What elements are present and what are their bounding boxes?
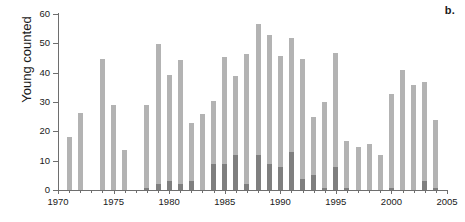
- bar-light: [322, 102, 327, 190]
- bar-dark: [189, 181, 194, 190]
- x-tick: [414, 190, 415, 193]
- bar-dark: [233, 155, 238, 190]
- x-tick-label: 2005: [427, 197, 465, 207]
- bar-light: [356, 147, 361, 190]
- bar-dark: [433, 188, 438, 190]
- x-tick: [269, 190, 270, 193]
- x-tick: [403, 190, 404, 193]
- x-tick: [125, 190, 126, 193]
- x-tick: [280, 190, 281, 194]
- bar-dark: [422, 181, 427, 190]
- bar-dark: [344, 188, 349, 190]
- bar-light: [111, 105, 116, 190]
- x-tick: [391, 190, 392, 194]
- y-tick-label: 60: [20, 9, 50, 19]
- bar-light: [300, 59, 305, 190]
- bar-dark: [300, 179, 305, 190]
- bar-light: [344, 141, 349, 190]
- x-axis-line: [58, 190, 447, 191]
- x-tick: [347, 190, 348, 193]
- x-tick: [136, 190, 137, 193]
- bar-light: [122, 150, 127, 190]
- x-tick: [291, 190, 292, 193]
- bar-dark: [311, 175, 316, 190]
- x-tick: [180, 190, 181, 193]
- bar-light: [178, 60, 183, 190]
- x-tick-label: 1980: [149, 197, 189, 207]
- x-tick: [69, 190, 70, 193]
- bar-light: [200, 114, 205, 190]
- y-tick-label: 0: [20, 185, 50, 195]
- y-tick-label: 10: [20, 156, 50, 166]
- bar-light: [411, 85, 416, 190]
- bar-light: [389, 94, 394, 191]
- x-tick: [369, 190, 370, 193]
- bar-dark: [167, 181, 172, 190]
- x-tick: [214, 190, 215, 193]
- x-tick: [80, 190, 81, 193]
- chart-figure: b. Young counted 0102030405060 197019751…: [0, 0, 465, 222]
- x-tick: [169, 190, 170, 194]
- y-tick-label: 50: [20, 38, 50, 48]
- x-tick: [191, 190, 192, 193]
- bar-light: [144, 105, 149, 190]
- x-tick: [358, 190, 359, 193]
- x-tick-label: 2000: [371, 197, 411, 207]
- bar-dark: [289, 152, 294, 190]
- bar-light: [189, 123, 194, 190]
- bar-dark: [322, 188, 327, 190]
- x-tick: [225, 190, 226, 194]
- bar-dark: [178, 184, 183, 190]
- x-tick: [436, 190, 437, 193]
- x-tick: [114, 190, 115, 194]
- bar-light: [422, 82, 427, 190]
- bar-light: [433, 120, 438, 190]
- x-tick: [102, 190, 103, 193]
- bar-light: [244, 54, 249, 190]
- bar-dark: [244, 184, 249, 190]
- x-tick: [447, 190, 448, 194]
- x-tick: [202, 190, 203, 193]
- y-tick-label: 40: [20, 68, 50, 78]
- x-tick: [303, 190, 304, 193]
- x-tick: [425, 190, 426, 193]
- bar-light: [378, 155, 383, 190]
- bar-light: [156, 44, 161, 190]
- bar-light: [400, 70, 405, 190]
- x-tick: [247, 190, 248, 193]
- x-tick: [91, 190, 92, 193]
- bar-dark: [222, 164, 227, 190]
- y-tick-label: 30: [20, 97, 50, 107]
- x-tick: [147, 190, 148, 193]
- x-tick: [258, 190, 259, 193]
- x-tick-label: 1985: [205, 197, 245, 207]
- x-tick: [336, 190, 337, 194]
- x-tick-label: 1970: [38, 197, 78, 207]
- bar-dark: [144, 188, 149, 190]
- bar-dark: [256, 155, 261, 190]
- bar-light: [78, 113, 83, 190]
- x-tick: [236, 190, 237, 193]
- y-tick-label: 20: [20, 126, 50, 136]
- bar-dark: [211, 164, 216, 190]
- x-tick-label: 1990: [260, 197, 300, 207]
- x-tick-label: 1995: [316, 197, 356, 207]
- bar-light: [367, 144, 372, 190]
- bar-dark: [278, 167, 283, 190]
- bar-dark: [267, 164, 272, 190]
- bar-light: [100, 59, 105, 190]
- x-tick: [314, 190, 315, 193]
- x-tick: [58, 190, 59, 194]
- bar-dark: [156, 184, 161, 190]
- bar-light: [67, 137, 72, 190]
- x-tick: [380, 190, 381, 193]
- x-tick: [325, 190, 326, 193]
- bar-light: [167, 75, 172, 190]
- bar-dark: [333, 167, 338, 190]
- plot-area: [58, 14, 447, 190]
- x-tick: [158, 190, 159, 193]
- bar-dark: [389, 188, 394, 190]
- x-tick-label: 1975: [94, 197, 134, 207]
